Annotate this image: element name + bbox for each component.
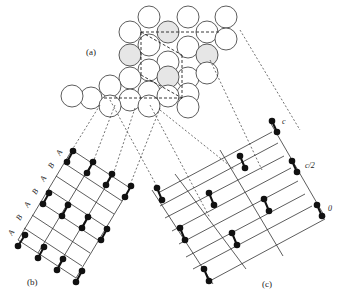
stacking-label: A: [6, 228, 17, 238]
stacking-label: B: [14, 213, 24, 222]
panel-label-b: (b): [27, 277, 38, 287]
stacking-label: A: [22, 200, 33, 210]
atoms-b: [16, 149, 134, 285]
stacking-label: B: [30, 187, 40, 196]
height-label-c-half: c/2: [305, 161, 315, 170]
height-label-c: c: [282, 117, 286, 126]
panel-label-a: (a): [86, 47, 96, 57]
unit-cell-grid-c: [152, 122, 325, 284]
atoms-c: [155, 119, 325, 284]
stacking-label: B: [46, 161, 56, 170]
stacking-label: A: [38, 174, 49, 184]
close-packed-layer: [61, 6, 237, 118]
stacking-label: A: [54, 148, 65, 158]
height-label-zero: 0: [328, 204, 332, 213]
panel-label-c: (c): [262, 279, 272, 289]
crystal-structure-diagram: A B A B A B A c c/2 0 (a): [0, 0, 338, 296]
